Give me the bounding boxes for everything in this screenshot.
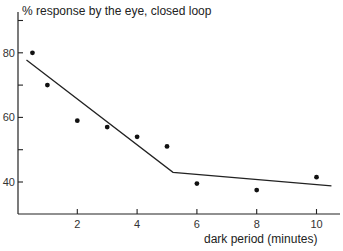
data-point [75, 118, 80, 123]
chart-plot: 406080246810 [0, 0, 343, 251]
data-point [45, 83, 50, 88]
x-tick-label: 10 [310, 218, 322, 230]
data-point [30, 50, 35, 55]
data-point [254, 188, 259, 193]
x-tick-label: 2 [74, 218, 80, 230]
y-tick-label: 80 [3, 47, 15, 59]
data-point [165, 144, 170, 149]
data-point [105, 125, 110, 130]
x-tick-label: 6 [194, 218, 200, 230]
x-axis-label: dark period (minutes) [204, 232, 317, 246]
fit-line [26, 60, 331, 186]
y-tick-label: 40 [3, 176, 15, 188]
data-point [314, 175, 319, 180]
y-tick-label: 60 [3, 111, 15, 123]
data-point [135, 134, 140, 139]
x-tick-label: 8 [254, 218, 260, 230]
data-point [195, 181, 200, 186]
x-tick-label: 4 [134, 218, 140, 230]
